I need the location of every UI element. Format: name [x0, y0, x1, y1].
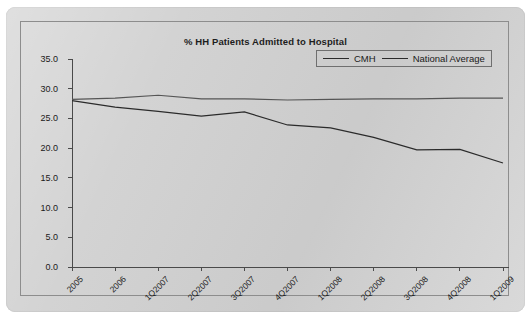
legend-swatch-national-average [382, 58, 408, 59]
chart-legend: CMH National Average [316, 50, 492, 67]
legend-entry-national-average: National Average [382, 53, 485, 64]
chart-frame: % HH Patients Admitted to Hospital 0.05.… [20, 21, 509, 296]
series-line-national-average [72, 95, 503, 100]
chart-axes [68, 59, 509, 271]
chart-series [72, 95, 503, 163]
legend-swatch-cmh [323, 58, 349, 59]
series-line-cmh [72, 101, 503, 163]
legend-label-national-average: National Average [413, 53, 485, 64]
legend-entry-cmh: CMH [323, 53, 376, 64]
chart-card: % HH Patients Admitted to Hospital 0.05.… [6, 7, 525, 312]
legend-label-cmh: CMH [354, 53, 376, 64]
